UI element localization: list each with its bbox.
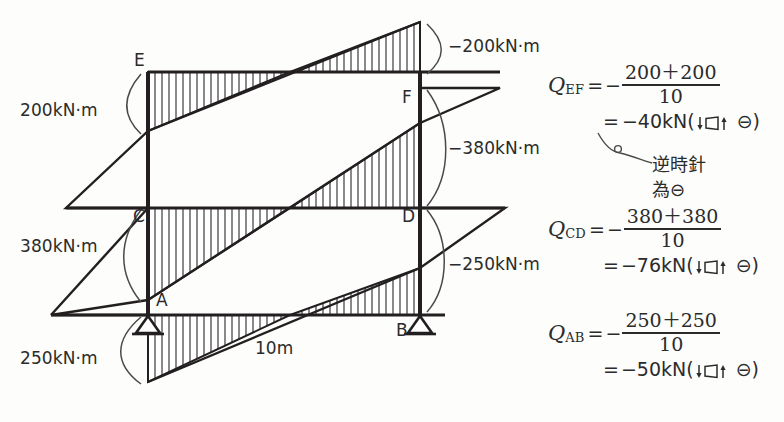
equation-QEF: QEF = − 200＋200 10 = −40kN(⊖) [548, 62, 784, 134]
equation-QCD: QCD = − 380＋380 10 = −76kN(⊖) [548, 206, 784, 278]
moment-label-left-200: 200kN·m [20, 102, 98, 119]
equation-QAB-symbol: QAB [548, 321, 585, 345]
fraction-denominator: 10 [659, 86, 683, 107]
equation-QCD-symbol: QCD [548, 217, 586, 241]
span-length-label: 10m [255, 340, 293, 357]
equation-QCD-fraction: 380＋380 10 [624, 207, 722, 250]
equation-panel: QEF = − 200＋200 10 = −40kN(⊖) 逆時針 為⊖ QCD [548, 62, 784, 412]
equation-QEF-symbol: QEF [548, 73, 584, 97]
arc-250-left [121, 317, 141, 384]
moment-label-right-200: −200kN·m [448, 38, 540, 55]
moment-label-right-250: −250kN·m [448, 256, 540, 273]
shear-sense-icon [695, 260, 735, 275]
equals-sign: = [603, 110, 619, 132]
node-label-F: F [402, 89, 412, 106]
column-moment-FD [420, 88, 500, 123]
fraction-numerator: 200＋200 [622, 63, 720, 84]
fraction-numerator: 380＋380 [624, 207, 722, 228]
arc-200-left [127, 74, 141, 134]
equals-sign: = [587, 74, 603, 96]
arc-200-right [427, 24, 441, 74]
column-moment-EC [66, 131, 148, 208]
equation-QCD-result: −76kN(⊖) [621, 254, 759, 276]
equation-QEF-result: −40kN(⊖) [622, 110, 760, 132]
moment-label-left-380: 380kN·m [20, 238, 98, 255]
minus-sign: − [605, 74, 621, 96]
equation-QEF-fraction: 200＋200 10 [622, 63, 720, 106]
node-label-C: C [133, 208, 145, 225]
arc-380-right [427, 90, 446, 206]
annotation-line1: 逆時針 [652, 150, 706, 176]
equals-sign: = [589, 218, 605, 240]
equation-QAB: QAB = − 250＋250 10 = −50kN(⊖) [548, 310, 784, 382]
support-B-pin [404, 316, 436, 334]
node-label-E: E [134, 52, 145, 69]
node-label-B: B [396, 322, 408, 339]
moment-label-right-380: −380kN·m [448, 140, 540, 157]
equals-sign: = [588, 322, 604, 344]
node-label-D: D [402, 208, 415, 225]
minus-sign: − [605, 322, 621, 344]
fraction-denominator: 10 [659, 334, 683, 355]
shear-sense-icon [695, 364, 735, 379]
figure-canvas: E F C D A B 10m 200kN·m 380kN·m 250kN·m … [0, 0, 784, 422]
shear-sense-icon [696, 116, 736, 131]
equals-sign: = [603, 254, 619, 276]
equation-QAB-fraction: 250＋250 10 [622, 311, 720, 354]
equation-QAB-result: −50kN(⊖) [621, 358, 759, 380]
minus-sign: − [607, 218, 623, 240]
annotation-line2: 為⊖ [652, 175, 685, 201]
moment-label-left-250: 250kN·m [20, 350, 98, 367]
node-label-A: A [156, 292, 168, 309]
fraction-numerator: 250＋250 [622, 311, 720, 332]
fraction-denominator: 10 [661, 230, 685, 251]
equals-sign: = [603, 358, 619, 380]
